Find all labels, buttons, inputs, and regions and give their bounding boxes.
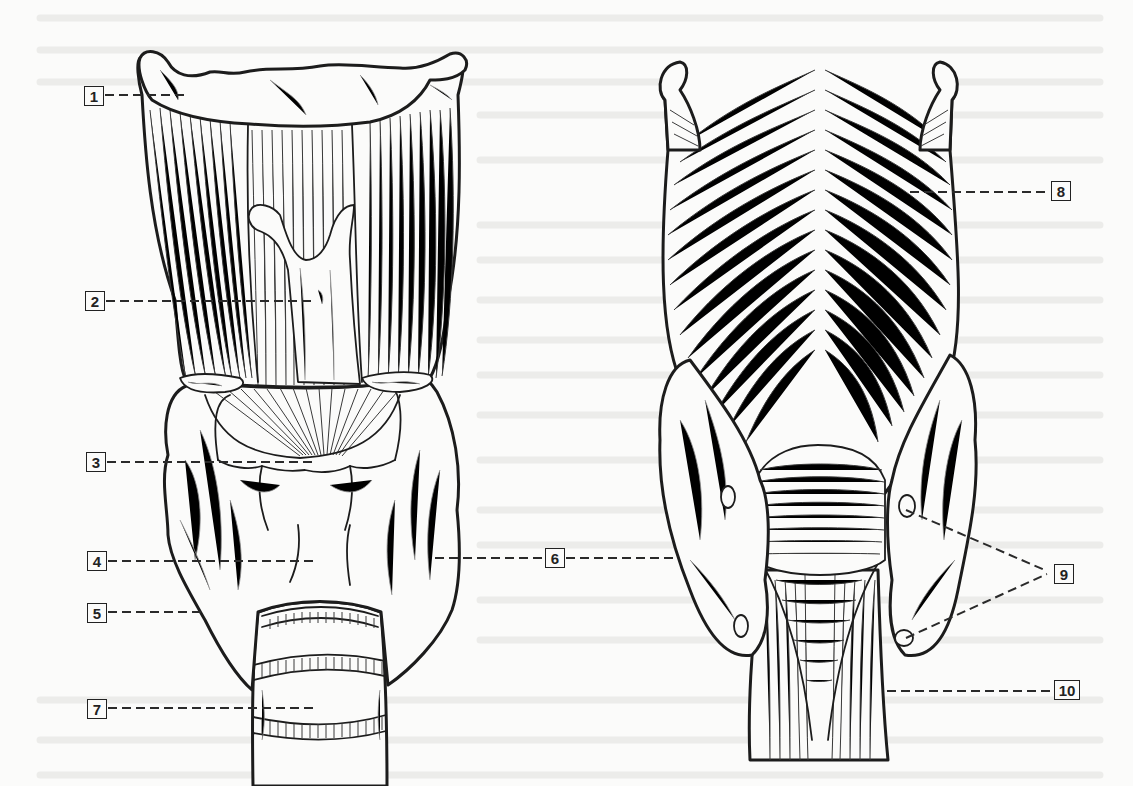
larynx-anterior xyxy=(138,52,467,393)
diagram-artwork xyxy=(0,0,1133,786)
label-8: 8 xyxy=(1051,181,1071,201)
label-3: 3 xyxy=(86,452,106,472)
esophagus-posterior xyxy=(749,560,888,760)
label-5: 5 xyxy=(87,603,107,623)
posterior-view xyxy=(660,62,1053,760)
label-6: 6 xyxy=(545,548,565,568)
label-7: 7 xyxy=(87,699,107,719)
trachea xyxy=(253,602,387,786)
label-2: 2 xyxy=(85,291,105,311)
thyroid-diagram: 1 2 3 4 5 6 7 8 9 10 xyxy=(0,0,1133,786)
label-1: 1 xyxy=(84,86,104,106)
label-10: 10 xyxy=(1054,680,1080,700)
label-4: 4 xyxy=(87,551,107,571)
label-9: 9 xyxy=(1054,564,1074,584)
